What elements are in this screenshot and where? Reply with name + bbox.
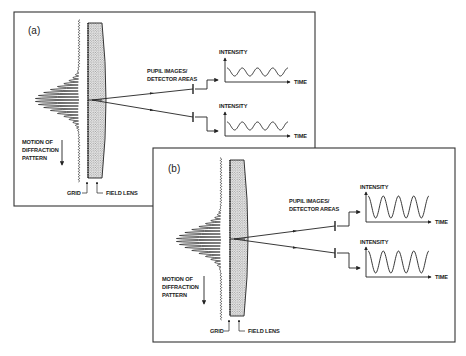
pupil-label-a-1: PUPIL IMAGES/ (147, 68, 188, 74)
motion-label-a-2: DIFFRACTION (22, 147, 59, 153)
pupil-label-b-2: DETECTOR AREAS (289, 206, 340, 212)
graph-ylabel: INTENSITY (360, 184, 389, 190)
grid-label-b: GRID (210, 328, 224, 334)
graph-xlabel: TIME (294, 133, 307, 139)
lens-label-a: FIELD LENS (106, 190, 138, 196)
lens-label-b: FIELD LENS (248, 328, 280, 334)
panel-a-tag: (a) (28, 25, 40, 36)
pupil-label-b-1: PUPIL IMAGES/ (289, 198, 330, 204)
grid-label-a: GRID (67, 190, 81, 196)
graph-xlabel: TIME (435, 219, 448, 225)
motion-label-b-3: PATTERN (162, 292, 187, 298)
motion-label-b-1: MOTION OF (162, 276, 193, 282)
graph-xlabel: TIME (294, 79, 307, 85)
diffraction-diagram: (a) PUPIL IMAGES/ DETECTOR AREAS INTENSI… (0, 0, 466, 356)
motion-label-b-2: DIFFRACTION (162, 284, 199, 290)
pupil-label-a-2: DETECTOR AREAS (147, 76, 198, 82)
graph-ylabel: INTENSITY (219, 103, 248, 109)
graph-ylabel: INTENSITY (219, 49, 248, 55)
panel-b: (b) PUPIL IMAGES/ DETECTOR AREAS INTENSI… (153, 148, 455, 342)
graph-ylabel: INTENSITY (360, 239, 389, 245)
graph-xlabel: TIME (435, 274, 448, 280)
motion-label-a-1: MOTION OF (22, 139, 53, 145)
panel-b-tag: (b) (168, 163, 180, 174)
motion-label-a-3: PATTERN (22, 155, 47, 161)
panel-b-frame (153, 148, 455, 342)
